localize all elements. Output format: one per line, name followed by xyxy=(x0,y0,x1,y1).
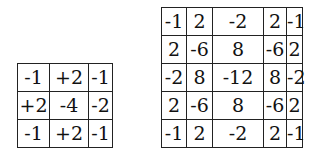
table-cell: -2 xyxy=(89,92,113,120)
table-cell: +2 xyxy=(50,120,89,148)
table-row: -1 +2 -1 xyxy=(18,120,113,148)
table-cell: -1 xyxy=(89,64,113,92)
table-cell: +2 xyxy=(18,92,50,120)
table-cell: -6 xyxy=(264,36,287,64)
table-cell: -1 xyxy=(162,120,187,148)
table-cell: -6 xyxy=(187,36,213,64)
table-cell: 8 xyxy=(264,64,287,92)
table-row: 2 -6 8 -6 2 xyxy=(162,92,303,120)
table-cell: 2 xyxy=(162,92,187,120)
table-cell: 2 xyxy=(187,8,213,36)
table-cell: -12 xyxy=(213,64,264,92)
table-cell: +2 xyxy=(50,64,89,92)
table-cell: -4 xyxy=(50,92,89,120)
table-cell: -2 xyxy=(213,120,264,148)
table-row: -1 +2 -1 xyxy=(18,64,113,92)
table-cell: 2 xyxy=(264,8,287,36)
table-row: -1 2 -2 2 -1 xyxy=(162,120,303,148)
table-cell: -6 xyxy=(264,92,287,120)
table-cell: -1 xyxy=(18,64,50,92)
table-cell: -1 xyxy=(162,8,187,36)
table-cell: -1 xyxy=(18,120,50,148)
table-cell: 2 xyxy=(162,36,187,64)
kernel-3x3-table: -1 +2 -1 +2 -4 -2 -1 +2 -1 xyxy=(17,63,113,148)
table-cell: -2 xyxy=(162,64,187,92)
table-cell: 2 xyxy=(187,120,213,148)
table-cell: -2 xyxy=(287,64,303,92)
table-cell: -6 xyxy=(187,92,213,120)
table-row: 2 -6 8 -6 2 xyxy=(162,36,303,64)
table-cell: 8 xyxy=(213,36,264,64)
table-cell: 2 xyxy=(287,36,303,64)
table-cell: 8 xyxy=(213,92,264,120)
table-cell: -1 xyxy=(287,8,303,36)
table-row: -2 8 -12 8 -2 xyxy=(162,64,303,92)
table-row: +2 -4 -2 xyxy=(18,92,113,120)
table-row: -1 2 -2 2 -1 xyxy=(162,8,303,36)
table-cell: 8 xyxy=(187,64,213,92)
table-cell: 2 xyxy=(287,92,303,120)
kernel-5x5-table: -1 2 -2 2 -1 2 -6 8 -6 2 -2 8 -12 8 -2 2… xyxy=(161,7,303,148)
table-cell: -1 xyxy=(89,120,113,148)
table-cell: 2 xyxy=(264,120,287,148)
table-cell: -2 xyxy=(213,8,264,36)
table-cell: -1 xyxy=(287,120,303,148)
